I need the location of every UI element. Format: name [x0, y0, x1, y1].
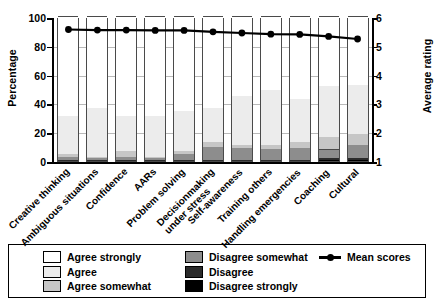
y-axis-right-title: Average rating [421, 31, 433, 121]
legend-label: Disagree strongly [209, 280, 298, 292]
legend-item[interactable]: Agree somewhat [43, 279, 151, 294]
legend-item[interactable]: Disagree somewhat [185, 250, 308, 265]
mean-score-point [267, 31, 274, 38]
legend-item[interactable]: Agree [43, 265, 151, 280]
legend-label: Agree [67, 266, 97, 278]
legend-label: Agree strongly [67, 251, 141, 263]
legend: Agree stronglyAgreeAgree somewhat Disagr… [8, 244, 426, 298]
y-tick-label-right: 5 [376, 41, 398, 53]
legend-item[interactable]: Disagree strongly [185, 279, 308, 294]
legend-swatch [185, 266, 203, 278]
legend-item[interactable]: Disagree [185, 265, 308, 280]
y-tick-label-left: 0 [16, 156, 46, 168]
y-tick-label-right: 1 [376, 156, 398, 168]
y-tick-label-right: 4 [376, 70, 398, 82]
y-tick-label-left: 40 [16, 98, 46, 110]
legend-swatch [185, 280, 203, 292]
legend-column-agree: Agree stronglyAgreeAgree somewhat [43, 250, 151, 294]
legend-label: Disagree [209, 266, 253, 278]
y-tick-label-left: 80 [16, 41, 46, 53]
mean-score-point [239, 30, 246, 37]
chart-container: Percentage Average rating 100806040200 6… [0, 0, 434, 302]
mean-score-point [152, 27, 159, 34]
legend-swatch [43, 280, 61, 292]
y-tick-label-left: 20 [16, 127, 46, 139]
y-tick-label-right: 2 [376, 127, 398, 139]
legend-label: Agree somewhat [67, 280, 151, 292]
mean-score-point [94, 27, 101, 34]
y-tick-label-left: 60 [16, 70, 46, 82]
legend-item-mean-scores[interactable]: Mean scores [319, 250, 411, 265]
legend-swatch [43, 266, 61, 278]
legend-swatch [185, 251, 203, 263]
y-tick-label-right: 6 [376, 12, 398, 24]
mean-scores-line [54, 18, 372, 162]
legend-item[interactable]: Agree strongly [43, 250, 151, 265]
legend-column-line: Mean scores [319, 250, 411, 265]
legend-label: Mean scores [347, 251, 411, 263]
y-tick-label-left: 100 [16, 12, 46, 24]
mean-score-point [354, 36, 361, 43]
mean-score-point [181, 27, 188, 34]
y-tick-label-right: 3 [376, 98, 398, 110]
mean-score-point [296, 31, 303, 38]
legend-swatch [43, 251, 61, 263]
plot-area [52, 18, 374, 164]
mean-scores-line-icon [319, 252, 341, 262]
mean-score-point [65, 26, 72, 33]
legend-label: Disagree somewhat [209, 251, 308, 263]
mean-score-point [123, 27, 130, 34]
mean-score-point [210, 28, 217, 35]
legend-column-disagree: Disagree somewhatDisagreeDisagree strong… [185, 250, 308, 294]
mean-score-point [325, 33, 332, 40]
x-axis-label: Cultural [327, 167, 361, 201]
